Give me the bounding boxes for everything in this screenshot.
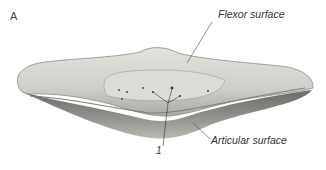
panel-label: A [10, 10, 17, 22]
articular-surface-label: Articular surface [211, 134, 287, 146]
numbered-label-1: 1 [156, 145, 162, 156]
flexor-surface-label: Flexor surface [218, 8, 285, 20]
anatomical-figure: A Flexor surface Articular surface 1 [0, 0, 326, 170]
